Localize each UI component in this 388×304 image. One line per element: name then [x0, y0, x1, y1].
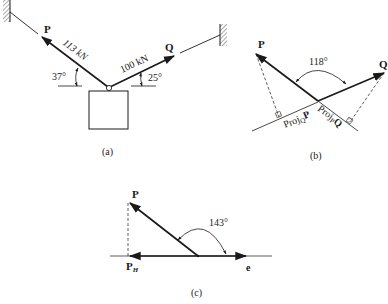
junction-ring	[106, 85, 111, 90]
left-cable	[10, 12, 38, 34]
right-angle-marker-p	[275, 111, 282, 118]
component-ph-sub: H	[132, 266, 139, 274]
right-cable	[180, 35, 220, 53]
left-wall-support	[3, 0, 10, 22]
vector-p-label: P	[132, 188, 139, 200]
figure-c: P 143° PH e (c)	[110, 188, 272, 299]
vector-projection-diagram: P 113 kN 37° Q 100 kN 25° (a) P Q 118° P…	[0, 0, 388, 304]
vector-p-arrow	[130, 203, 198, 256]
proj-p-q-label: ProjPQ	[315, 103, 346, 130]
angle-118-label: 118°	[309, 56, 328, 67]
vector-q-label: Q	[165, 41, 174, 53]
caption-b: (b)	[310, 150, 322, 162]
angle-37-label: 37°	[52, 71, 66, 82]
angle-25-label: 25°	[148, 72, 162, 83]
component-ph-label: PH	[126, 260, 139, 274]
right-wall-support	[220, 24, 227, 46]
vector-q-label: Q	[379, 58, 388, 70]
angle-143-label: 143°	[209, 217, 228, 228]
origin-point	[197, 255, 199, 257]
hanging-block	[89, 91, 128, 129]
svg-text:ProjQP: ProjQP	[281, 108, 312, 131]
angle-arc-37	[76, 68, 78, 86]
angle-arc-25	[141, 73, 142, 86]
caption-a: (a)	[102, 146, 113, 158]
angle-arc-118	[296, 70, 346, 84]
figure-a: P 113 kN 37° Q 100 kN 25° (a)	[3, 0, 227, 158]
vector-q-magnitude: 100 kN	[118, 52, 150, 75]
proj-q-p-label: ProjQP	[281, 108, 312, 131]
svg-text:ProjPQ: ProjPQ	[315, 103, 346, 130]
caption-c: (c)	[191, 287, 202, 299]
proj-q-p-base: Proj	[282, 113, 302, 129]
vector-p-label: P	[44, 23, 51, 35]
vector-p-label: P	[258, 38, 265, 50]
axis-e-label: e	[246, 262, 251, 273]
angle-arc-143	[178, 229, 226, 254]
figure-b: P Q 118° ProjQP ProjPQ (b)	[252, 38, 388, 162]
vector-p-magnitude: 113 kN	[61, 37, 91, 63]
